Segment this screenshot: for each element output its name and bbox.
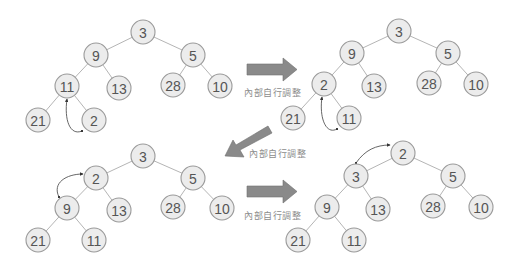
- heap-node: 2: [82, 108, 106, 132]
- node-value: 3: [139, 149, 147, 165]
- tree-edge: [154, 37, 182, 50]
- heap-node: 2: [84, 166, 108, 190]
- tree-edge: [363, 36, 388, 48]
- heap-node: 11: [337, 106, 361, 130]
- heap-diagram: 3951113281021239521328102111325913281021…: [0, 0, 517, 268]
- node-value: 21: [30, 233, 46, 249]
- heap-node: 13: [107, 198, 131, 222]
- heap-node: 28: [161, 73, 185, 97]
- node-value: 10: [468, 77, 484, 93]
- tree-edge: [414, 158, 442, 171]
- heap-node: 13: [107, 76, 131, 100]
- transition-label: 內部自行調整: [244, 86, 301, 99]
- tree-edge: [107, 37, 132, 49]
- node-value: 11: [87, 233, 102, 249]
- swap-arrow-icon: [356, 145, 390, 163]
- node-value: 3: [352, 169, 360, 185]
- tree-edge: [363, 186, 372, 199]
- node-value: 13: [111, 81, 127, 97]
- tree-edge: [335, 216, 347, 230]
- tree-edge: [75, 217, 87, 231]
- tree-edge: [75, 64, 88, 77]
- heap-node: 13: [362, 74, 386, 98]
- heap-node: 11: [55, 74, 79, 98]
- node-value: 2: [92, 171, 100, 187]
- node-value: 28: [165, 78, 181, 94]
- heap-node: 9: [55, 196, 79, 220]
- tree-edge: [154, 161, 182, 173]
- diagram-canvas: 3951113281021239521328102111325913281021…: [0, 0, 517, 268]
- heap-node: 10: [469, 195, 493, 219]
- tree-edge: [46, 217, 59, 231]
- heap-node: 28: [417, 71, 441, 95]
- node-value: 21: [30, 113, 46, 129]
- node-value: 5: [444, 46, 452, 62]
- heap-node: 21: [26, 108, 50, 132]
- heap-node: 21: [26, 228, 50, 252]
- heap-node: 28: [161, 195, 185, 219]
- tree-edge: [201, 64, 212, 77]
- transition-label: 內部自行調整: [244, 209, 301, 222]
- node-value: 2: [399, 146, 407, 162]
- tree-edge: [335, 185, 348, 198]
- node-value: 9: [323, 200, 331, 216]
- node-value: 13: [370, 202, 386, 218]
- node-value: 28: [425, 199, 441, 215]
- tree-edge: [456, 62, 468, 75]
- right-arrow-icon: [247, 180, 297, 203]
- node-value: 11: [60, 79, 75, 95]
- heap-node: 13: [366, 197, 390, 221]
- swap-arrow-icon: [66, 99, 82, 132]
- heap-node: 2: [391, 141, 415, 165]
- node-value: 21: [290, 233, 306, 249]
- heap-node: 5: [181, 166, 205, 190]
- tree-edge: [201, 187, 213, 200]
- heap-node: 21: [286, 228, 310, 252]
- heap-node: 21: [281, 106, 305, 130]
- node-value: 13: [111, 203, 127, 219]
- node-value: 21: [285, 111, 301, 127]
- tree-edge: [103, 65, 112, 78]
- node-value: 5: [189, 171, 197, 187]
- tree-edge: [46, 95, 59, 111]
- heap-node: 11: [342, 228, 366, 252]
- tree-edge: [180, 188, 186, 197]
- node-value: 5: [449, 169, 457, 185]
- node-value: 2: [90, 113, 98, 129]
- node-value: 9: [63, 201, 71, 217]
- tree-edge: [435, 63, 441, 73]
- node-value: 13: [366, 79, 382, 95]
- tree-edge: [332, 62, 344, 75]
- heap-node: 3: [131, 144, 155, 168]
- tree-edge: [367, 158, 392, 170]
- node-value: 11: [342, 111, 357, 127]
- tree-edge: [180, 65, 187, 75]
- heap-node: 5: [441, 164, 465, 188]
- node-value: 5: [189, 48, 197, 64]
- tree-edge: [359, 63, 368, 76]
- tree-edge: [301, 93, 316, 109]
- heap-node: 28: [421, 194, 445, 218]
- swap-arrow-icon: [57, 174, 83, 197]
- tree-edge: [331, 94, 342, 109]
- node-value: 3: [395, 24, 403, 40]
- tree-edge: [306, 216, 319, 231]
- heap-node: 3: [131, 20, 155, 44]
- node-value: 9: [92, 48, 100, 64]
- right-arrow-icon: [247, 58, 297, 81]
- heap-node: 5: [436, 41, 460, 65]
- node-value: 11: [347, 233, 362, 249]
- heap-node: 3: [344, 164, 368, 188]
- heap-node: 9: [315, 195, 339, 219]
- node-value: 10: [473, 200, 489, 216]
- node-value: 9: [348, 46, 356, 62]
- node-value: 10: [214, 201, 230, 217]
- tree-edge: [74, 95, 86, 110]
- heap-node: 9: [84, 43, 108, 67]
- tree-edge: [440, 186, 447, 196]
- heap-node: 10: [210, 196, 234, 220]
- node-value: 2: [320, 77, 328, 93]
- heap-node: 3: [387, 19, 411, 43]
- tree-edge: [410, 36, 437, 48]
- node-value: 28: [421, 76, 437, 92]
